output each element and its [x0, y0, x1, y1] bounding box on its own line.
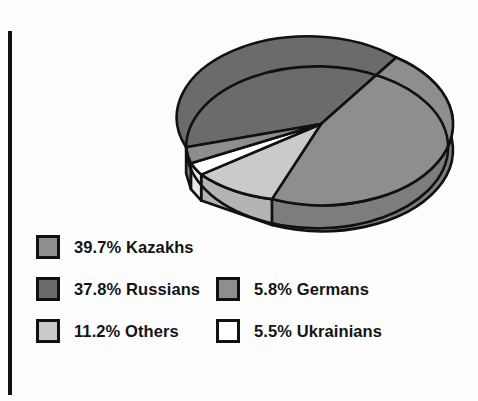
legend-item-kazakhs[interactable]: 39.7% Kazakhs	[36, 230, 194, 264]
legend-label-germans: 5.8% Germans	[254, 280, 369, 299]
pie-chart-figure: 39.7% Kazakhs 37.8% Russians 11.2% Other…	[0, 0, 478, 401]
pie-chart-canvas	[170, 8, 470, 253]
legend-label-ukrainians: 5.5% Ukrainians	[254, 322, 382, 341]
legend-swatch-russians	[36, 277, 60, 301]
legend-item-ukrainians[interactable]: 5.5% Ukrainians	[216, 314, 382, 348]
legend-item-germans[interactable]: 5.8% Germans	[216, 272, 369, 306]
legend-item-russians[interactable]: 37.8% Russians	[36, 272, 200, 306]
pie-chart-svg	[170, 8, 470, 253]
legend-label-kazakhs: 39.7% Kazakhs	[74, 238, 194, 257]
legend-swatch-ukrainians	[216, 319, 240, 343]
legend-swatch-others	[36, 319, 60, 343]
pie-top-face	[177, 36, 453, 205]
legend-swatch-kazakhs	[36, 235, 60, 259]
chart-legend: 39.7% Kazakhs 37.8% Russians 11.2% Other…	[36, 228, 466, 353]
legend-label-others: 11.2% Others	[74, 322, 179, 341]
legend-label-russians: 37.8% Russians	[74, 280, 200, 299]
legend-swatch-germans	[216, 277, 240, 301]
left-vertical-rule	[8, 31, 12, 395]
legend-item-others[interactable]: 11.2% Others	[36, 314, 179, 348]
